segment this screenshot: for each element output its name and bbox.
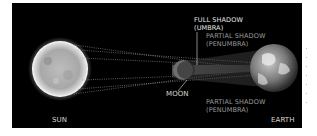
earth-icon [250, 44, 298, 92]
edge-dots-decoration [306, 48, 308, 111]
eclipse-illustration [12, 3, 302, 128]
moon-label: MOON [166, 91, 189, 99]
eclipse-diagram-panel: FULL SHADOW (UMBRA) PARTIAL SHADOW (PENU… [12, 3, 302, 128]
penumbra-bottom-label-line2: (PENUMBRA) [206, 107, 249, 115]
earth-label: EARTH [271, 117, 295, 125]
penumbra-top-label-line2: (PENUMBRA) [206, 41, 249, 49]
sun-label: SUN [52, 117, 67, 125]
sun-icon [32, 41, 88, 97]
